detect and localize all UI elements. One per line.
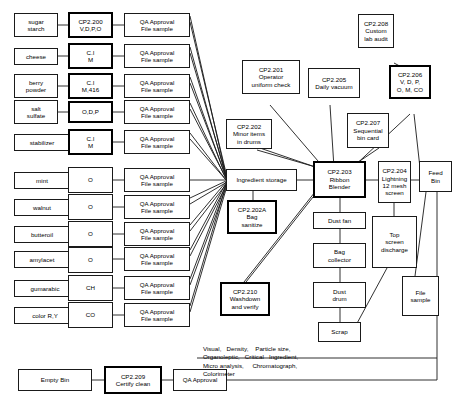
ingredient-label: gumarabic xyxy=(30,285,59,292)
cp-text: sanitize xyxy=(241,221,262,228)
qa-approval-box[interactable]: QA Approval File sample xyxy=(124,247,190,271)
ingredient-box-stabilizer[interactable]: stabilizer xyxy=(14,134,70,151)
test-label: V,D,P,O xyxy=(80,25,101,32)
ingredient-box-mint[interactable]: mint xyxy=(14,172,70,189)
process-bag-collector[interactable]: Bag collector xyxy=(313,243,366,268)
test-label: O xyxy=(88,256,93,263)
qa-approval-box[interactable]: QA Approval File sample xyxy=(124,276,190,300)
ingredient-box-butteroil[interactable]: butteroil xyxy=(14,226,70,243)
control-point-cp2210[interactable]: CP2.210 Washdown and verify xyxy=(220,282,270,316)
process-label: screen xyxy=(385,189,404,196)
process-label: drum xyxy=(332,295,346,302)
test-box-o-walnut[interactable]: O xyxy=(68,194,113,220)
qa-approval-box[interactable]: QA Approval File sample xyxy=(124,222,190,246)
test-label: O xyxy=(88,203,93,210)
process-dust-drum[interactable]: Dust drum xyxy=(313,282,366,308)
legend-line: Visual, Density, Particle size, xyxy=(203,345,290,352)
test-box-o-mint[interactable]: O xyxy=(68,167,113,193)
ingredient-box-amylacet[interactable]: amylacet xyxy=(14,251,70,268)
process-lightning-screen[interactable]: CP2.204 Lightning 12 mesh screen xyxy=(378,161,411,203)
qa-approval-box[interactable]: QA Approval File sample xyxy=(124,130,190,154)
ingredient-label: amylacet xyxy=(30,256,55,263)
cp-code: CP2.210 xyxy=(233,288,257,295)
test-box-o-butteroil[interactable]: O xyxy=(68,221,113,247)
ingredient-box-gumarabic[interactable]: gumarabic xyxy=(14,280,76,297)
test-box-o-amylacet[interactable]: O xyxy=(68,247,113,273)
cp-text: and verify xyxy=(231,303,258,310)
ingredient-box-berry-powder[interactable]: berry powder xyxy=(14,74,58,98)
process-feed-bin[interactable]: Feed Bin xyxy=(419,161,452,192)
test-box-ci-m416[interactable]: C.I M,416 xyxy=(68,73,113,99)
cp-text: Certify clean xyxy=(116,380,151,387)
ingredient-label: powder xyxy=(26,86,46,93)
ingredient-label: walnut xyxy=(33,204,51,211)
qa-approval-label: QA Approval xyxy=(140,281,175,288)
qa-approval-box[interactable]: QA Approval File sample xyxy=(124,303,190,327)
control-point-cp2205[interactable]: CP2.205 Daily vacuum xyxy=(308,68,360,98)
qa-approval-box[interactable]: QA Approval File sample xyxy=(124,13,190,37)
control-point-cp2207[interactable]: CP2.207 Sequential bin card xyxy=(347,113,389,148)
process-empty-bin[interactable]: Empty Bin xyxy=(18,369,92,391)
test-box-ch[interactable]: CH xyxy=(68,275,113,301)
legend-text: Visual, Density, Particle size, Organole… xyxy=(196,336,298,388)
ingredient-box-sugar-starch[interactable]: sugar starch xyxy=(14,13,58,37)
test-label: CO xyxy=(86,311,95,318)
cp-code: CP2.206 xyxy=(398,71,422,78)
test-box-ci-m-cheese[interactable]: C.I M xyxy=(68,43,113,69)
process-ingredient-storage[interactable]: Ingredient storage xyxy=(226,169,297,191)
ingredient-box-walnut[interactable]: walnut xyxy=(14,199,70,216)
ingredient-label: berry xyxy=(29,79,43,86)
control-point-cp2206[interactable]: CP2.206 V, D, P, O, M, CO xyxy=(389,65,431,99)
cp-code: CP2.207 xyxy=(356,119,380,126)
qa-file-sample-label: File sample xyxy=(141,142,173,149)
qa-approval-label: QA Approval xyxy=(140,227,175,234)
process-label: 12 mesh xyxy=(383,182,407,189)
control-point-cp2202a[interactable]: CP2.202A Bag sanitize xyxy=(227,200,277,234)
test-box-odp[interactable]: O,D,P xyxy=(68,101,113,123)
qa-approval-box[interactable]: QA Approval File sample xyxy=(124,168,190,192)
process-label: Ingredient storage xyxy=(236,176,286,183)
cp-code: CP2.202A xyxy=(238,206,266,213)
process-label: Top xyxy=(389,231,399,238)
process-dust-fan[interactable]: Dust fan xyxy=(313,212,366,229)
cp-text: Washdown xyxy=(230,295,261,302)
qa-file-sample-label: File sample xyxy=(141,25,173,32)
qa-approval-box[interactable]: QA Approval File sample xyxy=(124,100,190,124)
process-code: CP2.203 xyxy=(327,168,351,175)
cp-text: Minor items xyxy=(233,130,265,137)
process-label: Bin xyxy=(431,177,440,184)
legend-line: Organoleptic, Critical Ingredient, xyxy=(203,353,298,360)
cp-text: lab audit xyxy=(364,35,388,42)
test-label: M xyxy=(88,142,93,149)
test-box-ci-m-stabilizer[interactable]: C.I M xyxy=(68,129,113,155)
test-box-cp2200[interactable]: CP2.200 V,D,P,O xyxy=(68,12,113,38)
process-file-sample[interactable]: File sample xyxy=(402,276,439,316)
control-point-cp2201[interactable]: CP2.201 Operator uniform check xyxy=(242,60,300,94)
cp-text: Custom xyxy=(365,27,386,34)
ingredient-box-salt-sulfate[interactable]: salt sulfate xyxy=(14,100,58,124)
process-label: screen xyxy=(385,238,404,245)
test-label: M xyxy=(88,56,93,63)
control-point-cp2209-certify-clean[interactable]: CP2.209 Certify clean xyxy=(104,366,162,394)
ingredient-label: butteroil xyxy=(31,231,53,238)
ingredient-box-color-ry[interactable]: color R,Y xyxy=(14,307,76,324)
test-box-co[interactable]: CO xyxy=(68,302,113,328)
ingredient-box-cheese[interactable]: cheese xyxy=(14,48,58,65)
qa-approval-box[interactable]: QA Approval File sample xyxy=(124,74,190,98)
cp-text: V, D, P, xyxy=(400,78,420,85)
qa-approval-label: QA Approval xyxy=(140,200,175,207)
test-label: O xyxy=(88,230,93,237)
control-point-cp2208[interactable]: CP2.208 Custom lab audit xyxy=(358,14,394,48)
qa-file-sample-label: File sample xyxy=(141,234,173,241)
process-label: Empty Bin xyxy=(41,376,69,383)
cp-text: Operator xyxy=(259,73,284,80)
process-top-screen-discharge[interactable]: Top screen discharge xyxy=(372,216,417,268)
cp-text: in drums xyxy=(237,138,261,145)
process-ribbon-blender[interactable]: CP2.203 Ribbon Blender xyxy=(313,161,366,198)
qa-approval-box[interactable]: QA Approval File sample xyxy=(124,195,190,219)
process-scrap[interactable]: Scrap xyxy=(318,322,361,342)
control-point-cp2202[interactable]: CP2.202 Minor items in drums xyxy=(226,119,272,149)
qa-approval-box[interactable]: QA Approval File sample xyxy=(124,44,190,68)
process-label: sample xyxy=(410,296,430,303)
cp-code: CP2.202 xyxy=(237,123,261,130)
